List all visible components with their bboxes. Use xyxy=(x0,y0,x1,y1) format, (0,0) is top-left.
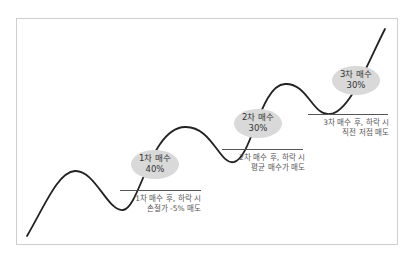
stage-2-caption: 2차 매수 후, 하락 시 평균 매수가 매도 xyxy=(239,153,305,173)
stage-3-caption: 3차 매수 후, 하락 시 직전 저점 매도 xyxy=(323,118,389,138)
stage-3-bubble: 3차 매수 30% xyxy=(332,66,380,95)
stage-3-percent: 30% xyxy=(332,80,380,91)
stage-3-title: 3차 매수 xyxy=(332,69,380,80)
stage-3-caption-line2: 직전 저점 매도 xyxy=(323,128,389,138)
stage-2-title: 2차 매수 xyxy=(234,112,282,123)
stage-1-caption-line2: 손절가 -5% 매도 xyxy=(135,204,201,214)
stage-1-caption-line1: 1차 매수 후, 하락 시 xyxy=(135,194,201,204)
stage-2-bubble: 2차 매수 30% xyxy=(234,109,282,138)
stage-2-level-line xyxy=(222,149,303,150)
stage-3-caption-line1: 3차 매수 후, 하락 시 xyxy=(323,118,389,128)
stage-2-percent: 30% xyxy=(234,123,282,134)
stage-1-bubble: 1차 매수 40% xyxy=(131,150,179,179)
stage-2-caption-line1: 2차 매수 후, 하락 시 xyxy=(239,153,305,163)
stage-1-caption: 1차 매수 후, 하락 시 손절가 -5% 매도 xyxy=(135,194,201,214)
stage-3-level-line xyxy=(308,114,388,115)
stage-1-title: 1차 매수 xyxy=(131,153,179,164)
stage-1-level-line xyxy=(120,190,201,191)
stage-1-percent: 40% xyxy=(131,164,179,175)
stage-2-caption-line2: 평균 매수가 매도 xyxy=(239,163,305,173)
